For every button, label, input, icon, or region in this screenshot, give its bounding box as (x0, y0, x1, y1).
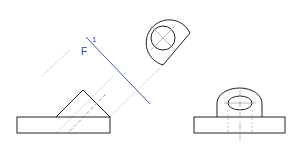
fold-label-subscript: 1 (92, 35, 97, 44)
front-view (17, 90, 110, 134)
side-view (194, 88, 285, 145)
drawing-canvas: F 1 (0, 0, 298, 154)
auxiliary-view (146, 20, 190, 65)
projection-lines (42, 50, 166, 133)
fold-line-f1: F 1 (81, 35, 150, 104)
fold-label-f: F (81, 46, 87, 57)
